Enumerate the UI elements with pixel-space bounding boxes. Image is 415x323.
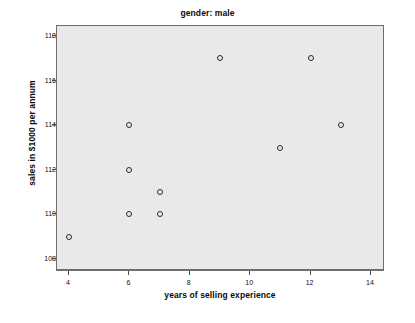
data-point — [157, 211, 163, 217]
x-tick-mark — [128, 271, 129, 275]
data-point — [308, 55, 314, 61]
data-point — [126, 211, 132, 217]
data-point — [277, 145, 283, 151]
data-point — [217, 55, 223, 61]
x-tick-label: 10 — [237, 279, 261, 286]
chart-title: gender: male — [0, 8, 415, 18]
x-tick-mark — [310, 271, 311, 275]
data-point — [126, 167, 132, 173]
x-tick-mark — [249, 271, 250, 275]
x-tick-mark — [370, 271, 371, 275]
x-tick-mark — [189, 271, 190, 275]
y-axis: 108110112114116118 — [24, 25, 56, 270]
data-point — [126, 122, 132, 128]
data-point — [157, 189, 163, 195]
x-tick-label: 12 — [298, 279, 322, 286]
scatter-chart: gender: male sales in $1000 per annum 10… — [0, 0, 415, 323]
plot-area — [56, 25, 384, 270]
data-point — [338, 122, 344, 128]
x-axis-title: years of selling experience — [56, 290, 384, 300]
data-point — [66, 234, 72, 240]
x-tick-label: 14 — [358, 279, 382, 286]
x-tick-label: 6 — [116, 279, 140, 286]
x-tick-mark — [68, 271, 69, 275]
x-tick-label: 8 — [177, 279, 201, 286]
x-tick-label: 4 — [56, 279, 80, 286]
